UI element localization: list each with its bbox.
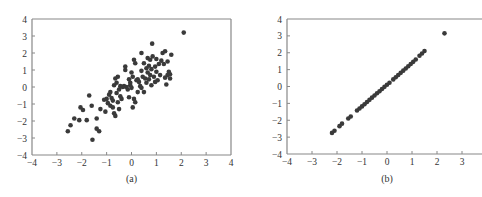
- data-point: [130, 75, 135, 80]
- data-point: [163, 49, 168, 54]
- x-tick-label: −4: [27, 158, 37, 168]
- data-point: [98, 107, 103, 112]
- data-point: [422, 49, 427, 54]
- figure-caption: (a): [126, 173, 137, 185]
- y-tick-label: 4: [22, 15, 27, 25]
- data-point: [332, 128, 337, 133]
- data-point: [111, 105, 116, 110]
- data-point: [154, 57, 159, 62]
- data-point: [119, 97, 124, 102]
- data-point: [117, 107, 122, 112]
- x-tick-label: 2: [435, 157, 440, 167]
- data-point: [108, 90, 113, 95]
- data-point: [181, 30, 186, 35]
- data-point: [116, 100, 121, 105]
- y-tick-label: 4: [277, 15, 282, 25]
- data-points: [330, 31, 447, 135]
- data-point: [168, 72, 173, 77]
- data-point: [387, 80, 392, 85]
- x-tick-label: 3: [204, 158, 209, 168]
- x-tick-label: −4: [282, 157, 292, 167]
- data-point: [103, 109, 108, 114]
- data-point: [150, 54, 155, 59]
- x-tick-label: −3: [307, 157, 317, 167]
- data-point: [133, 61, 138, 66]
- y-tick-label: 2: [277, 48, 282, 58]
- data-point: [340, 121, 345, 126]
- data-point: [142, 61, 147, 66]
- data-point: [129, 86, 134, 91]
- data-point: [123, 64, 128, 69]
- data-point: [348, 114, 353, 119]
- data-point: [149, 67, 154, 72]
- data-point: [90, 137, 95, 142]
- y-tick-label: 3: [22, 32, 27, 42]
- y-tick-label: 0: [277, 82, 282, 92]
- data-point: [155, 78, 160, 83]
- data-point: [139, 51, 144, 56]
- scatter-plot-b: −4−3−2−10123−4−3−2−101234(b): [241, 0, 482, 197]
- data-point: [127, 95, 132, 100]
- x-tick-label: −3: [52, 158, 62, 168]
- data-point: [149, 83, 154, 88]
- data-point: [66, 129, 71, 134]
- data-point: [118, 84, 123, 89]
- data-point: [84, 118, 89, 123]
- data-point: [97, 129, 102, 134]
- data-point: [168, 76, 173, 81]
- data-point: [135, 90, 140, 95]
- data-point: [102, 97, 107, 102]
- x-tick-label: 4: [229, 158, 234, 168]
- scatter-chart-a: −4−3−2−101234−4−3−2−101234(a): [0, 0, 241, 197]
- data-point: [135, 77, 140, 82]
- scatter-chart-b: −4−3−2−10123−4−3−2−101234(b): [241, 0, 482, 197]
- x-tick-label: 1: [154, 158, 159, 168]
- x-tick-label: 2: [179, 158, 184, 168]
- y-tick-label: −2: [272, 116, 282, 126]
- y-tick-label: −2: [17, 117, 27, 127]
- data-point: [165, 59, 170, 64]
- data-point: [130, 105, 135, 110]
- x-tick-label: −2: [77, 158, 87, 168]
- data-point: [413, 57, 418, 62]
- x-tick-label: 0: [385, 157, 390, 167]
- data-point: [114, 80, 119, 85]
- y-tick-label: 2: [22, 49, 27, 59]
- data-point: [128, 80, 133, 85]
- y-tick-label: −1: [17, 100, 27, 110]
- data-point: [139, 69, 144, 74]
- data-point: [111, 98, 116, 103]
- data-point: [164, 82, 169, 87]
- data-point: [116, 75, 121, 80]
- y-tick-label: 1: [277, 65, 282, 75]
- data-point: [81, 108, 86, 113]
- x-tick-label: −1: [102, 158, 112, 168]
- x-tick-label: 0: [129, 158, 134, 168]
- data-point: [152, 75, 157, 80]
- x-tick-label: −2: [332, 157, 342, 167]
- y-tick-label: −3: [17, 134, 27, 144]
- data-point: [142, 90, 147, 95]
- data-point: [89, 103, 94, 108]
- data-point: [139, 86, 144, 91]
- y-tick-label: 1: [22, 66, 27, 76]
- figure-caption: (b): [381, 173, 393, 185]
- scatter-plot-a: −4−3−2−101234−4−3−2−101234(a): [0, 0, 241, 197]
- data-point: [72, 116, 77, 121]
- data-point: [169, 52, 174, 57]
- data-points: [66, 30, 187, 142]
- data-point: [133, 100, 138, 105]
- y-tick-label: −3: [272, 133, 282, 143]
- y-tick-label: −4: [272, 150, 282, 160]
- data-point: [153, 64, 158, 69]
- data-point: [154, 69, 159, 74]
- x-tick-label: 1: [410, 157, 415, 167]
- data-point: [150, 41, 155, 46]
- data-point: [147, 77, 152, 82]
- data-point: [87, 93, 92, 98]
- data-point: [129, 70, 134, 75]
- data-point: [442, 31, 447, 36]
- data-point: [94, 116, 99, 121]
- y-tick-label: 3: [277, 31, 282, 41]
- data-point: [158, 73, 163, 78]
